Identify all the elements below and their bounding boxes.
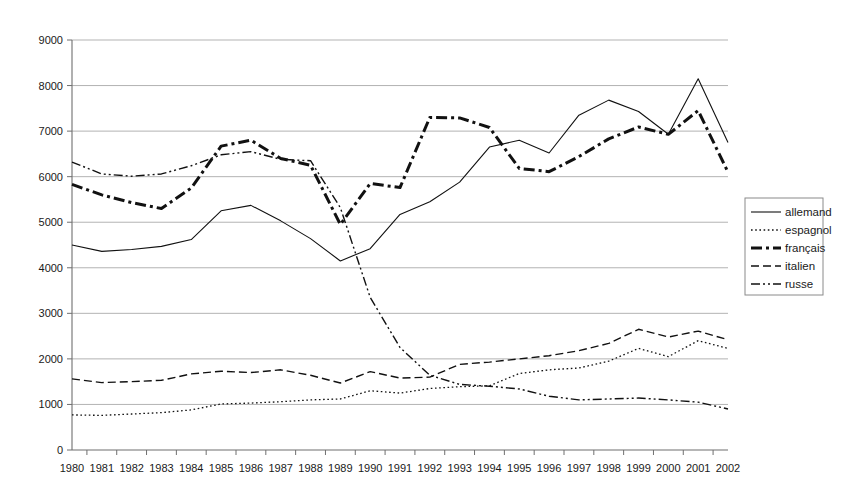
x-tick-label: 2002	[716, 462, 740, 474]
x-tick-label: 1993	[447, 462, 471, 474]
series-line-allemand	[72, 79, 728, 261]
y-tick-label: 7000	[39, 125, 63, 137]
legend-label-italien: italien	[785, 260, 815, 272]
gridlines	[72, 40, 728, 404]
y-tick-label: 0	[57, 444, 63, 456]
x-tick-label: 1998	[596, 462, 620, 474]
y-tick-label: 1000	[39, 398, 63, 410]
x-tick-label: 1981	[90, 462, 114, 474]
series-line-russe	[72, 152, 728, 409]
x-tick-label: 1995	[507, 462, 531, 474]
y-tick-label: 5000	[39, 216, 63, 228]
data-series-group	[72, 79, 728, 416]
y-tick-label: 9000	[39, 34, 63, 46]
y-tick-label: 2000	[39, 353, 63, 365]
x-tick-label: 2000	[656, 462, 680, 474]
x-tick-label: 1984	[179, 462, 203, 474]
x-tick-label: 1991	[388, 462, 412, 474]
x-tick-label: 1983	[149, 462, 173, 474]
x-tick-label: 1986	[239, 462, 263, 474]
y-tick-label: 6000	[39, 171, 63, 183]
y-axis-tickmarks	[67, 40, 72, 450]
y-tick-label: 3000	[39, 307, 63, 319]
x-tick-label: 1990	[358, 462, 382, 474]
x-tick-label: 1987	[268, 462, 292, 474]
legend: allemandespagnolfrançaisitalienrusse	[745, 198, 832, 295]
legend-label-allemand: allemand	[785, 206, 832, 218]
y-axis-tick-labels: 0100020003000400050006000700080009000	[39, 34, 63, 456]
legend-label-russe: russe	[785, 278, 813, 290]
legend-label-français: français	[785, 242, 826, 254]
x-tick-label: 1985	[209, 462, 233, 474]
y-tick-label: 8000	[39, 80, 63, 92]
x-tick-label: 1996	[537, 462, 561, 474]
x-axis-tickmarks	[87, 450, 713, 455]
x-tick-label: 1992	[418, 462, 442, 474]
x-tick-label: 1999	[626, 462, 650, 474]
x-tick-label: 1988	[298, 462, 322, 474]
x-tick-label: 1982	[119, 462, 143, 474]
x-tick-label: 1989	[328, 462, 352, 474]
x-tick-label: 1980	[60, 462, 84, 474]
series-line-italien	[72, 329, 728, 383]
line-chart: 0100020003000400050006000700080009000 19…	[0, 0, 866, 498]
x-tick-label: 2001	[686, 462, 710, 474]
chart-page: 0100020003000400050006000700080009000 19…	[0, 0, 866, 498]
x-tick-label: 1994	[477, 462, 501, 474]
x-tick-label: 1997	[567, 462, 591, 474]
series-line-français	[72, 111, 728, 225]
x-axis-tick-labels: 1980198119821983198419851986198719881989…	[60, 462, 740, 474]
legend-label-espagnol: espagnol	[785, 224, 832, 236]
y-tick-label: 4000	[39, 262, 63, 274]
